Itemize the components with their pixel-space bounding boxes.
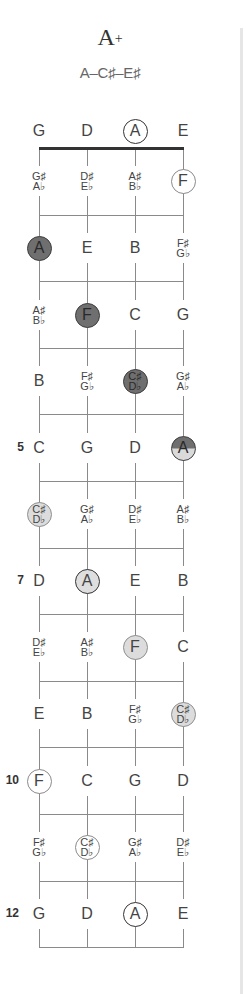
fret-line: [39, 215, 184, 216]
note-label: F♯G♭: [120, 699, 150, 729]
note-label: D: [120, 433, 150, 463]
flat-name: G♭: [128, 714, 142, 724]
flat-name: E♭: [33, 647, 45, 657]
chord-tone-marker: F: [75, 303, 100, 328]
fret-line: [39, 348, 184, 349]
note-label: G: [24, 899, 54, 929]
fret-number-7: 7: [8, 573, 24, 587]
chord-tone-marker: A: [27, 236, 52, 261]
chord-tone-marker: C♯D♭: [27, 502, 52, 527]
fret-line: [39, 814, 184, 815]
chord-tone-marker: C♯D♭: [123, 369, 148, 394]
chord-tone-marker: A: [123, 902, 148, 927]
note-label: G♯A♭: [72, 499, 102, 529]
chord-tone-marker: A: [75, 569, 100, 594]
note-label: B: [120, 233, 150, 263]
chord-tone-marker: F: [171, 169, 196, 194]
note-label: A♯B♭: [120, 166, 150, 196]
note-label: D♯E♭: [24, 632, 54, 662]
fret-line: [39, 747, 184, 748]
note-label: F♯G♭: [24, 832, 54, 862]
flat-name: A♭: [129, 847, 141, 857]
note-label: E: [120, 566, 150, 596]
flat-name: A♭: [33, 181, 45, 191]
fret-number-12: 12: [3, 906, 19, 920]
flat-name: B♭: [33, 315, 45, 325]
open-string-d: D: [72, 116, 102, 146]
fret-line: [39, 947, 184, 948]
note-label: A♯B♭: [72, 632, 102, 662]
fret-number-10: 10: [3, 773, 19, 787]
note-label: C: [24, 433, 54, 463]
chord-tone-marker: C♯D♭: [171, 702, 196, 727]
note-label: G♯A♭: [24, 166, 54, 196]
open-string-g: G: [24, 116, 54, 146]
note-label: B: [168, 566, 198, 596]
flat-name: D♭: [81, 847, 94, 857]
note-label: B: [72, 699, 102, 729]
chord-tone-marker: C♯D♭: [75, 835, 100, 860]
fretboard-diagram: GDAEG♯A♭D♯E♭A♯B♭FAEBF♯G♭A♯B♭FCGBF♯G♭C♯D♭…: [0, 0, 240, 994]
flat-name: D♭: [33, 514, 46, 524]
note-label: E: [24, 699, 54, 729]
fret-line: [39, 681, 184, 682]
note-label: A♯B♭: [24, 300, 54, 330]
fret-line: [39, 614, 184, 615]
page-edge-divider: [240, 28, 243, 994]
fret-number-5: 5: [8, 440, 24, 454]
open-string-e: E: [168, 116, 198, 146]
note-label: F♯G♭: [168, 233, 198, 263]
fret-line: [39, 548, 184, 549]
note-label: G♯A♭: [168, 366, 198, 396]
note-label: A♯B♭: [168, 499, 198, 529]
note-label: E: [168, 899, 198, 929]
flat-name: A♭: [81, 514, 93, 524]
note-label: F♯G♭: [72, 366, 102, 396]
note-label: D: [168, 766, 198, 796]
flat-name: D♭: [129, 381, 142, 391]
note-label: C: [72, 766, 102, 796]
note-label: G: [72, 433, 102, 463]
flat-name: B♭: [81, 647, 93, 657]
note-label: C: [168, 632, 198, 662]
note-label: E: [72, 233, 102, 263]
note-label: B: [24, 366, 54, 396]
fret-line: [39, 881, 184, 882]
flat-name: G♭: [32, 847, 46, 857]
note-label: D♯E♭: [168, 832, 198, 862]
note-label: D: [24, 566, 54, 596]
chord-tone-marker: A: [171, 436, 196, 461]
note-label: D: [72, 899, 102, 929]
flat-name: E♭: [129, 514, 141, 524]
note-label: G: [168, 300, 198, 330]
flat-name: B♭: [129, 181, 141, 191]
note-label: C: [120, 300, 150, 330]
note-label: G♯A♭: [120, 832, 150, 862]
fret-line: [39, 281, 184, 282]
flat-name: D♭: [177, 714, 190, 724]
chord-tone-marker: F: [123, 635, 148, 660]
flat-name: E♭: [177, 847, 189, 857]
flat-name: A♭: [177, 381, 189, 391]
nut: [39, 147, 184, 150]
flat-name: B♭: [177, 514, 189, 524]
fret-line: [39, 414, 184, 415]
note-label: G: [120, 766, 150, 796]
chord-tone-marker: F: [27, 769, 52, 794]
open-string-a: A: [123, 119, 148, 144]
note-label: D♯E♭: [72, 166, 102, 196]
note-label: D♯E♭: [120, 499, 150, 529]
flat-name: G♭: [176, 248, 190, 258]
flat-name: G♭: [80, 381, 94, 391]
flat-name: E♭: [81, 181, 93, 191]
fret-line: [39, 481, 184, 482]
